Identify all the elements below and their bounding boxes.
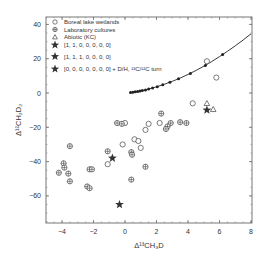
open-circle-marker [146,121,151,126]
y-axis-label: Δ¹²CH₂D₂ [14,104,23,136]
curve-dot [151,87,154,90]
star-marker [51,41,59,49]
legend-label: Abiotic (KC) [64,34,96,40]
x-tick-label: 8 [249,228,253,235]
star-marker [203,106,212,114]
triangle-marker [204,100,210,105]
legend-label: Laboratory cultures [64,27,115,33]
chart-canvas: −4−202468−60−40−2002040 Boreal lake wetl… [0,0,267,263]
open-circle-marker [53,20,57,24]
curve-line [130,34,251,93]
curve-dot [141,89,144,92]
star-marker [51,52,59,60]
open-circle-marker [214,75,219,80]
curve-dot [221,53,224,56]
curve-dot [147,88,150,91]
triangle-marker [210,106,216,111]
x-tick-label: 0 [123,228,127,235]
open-circle-marker [204,59,209,64]
legend-label: [1, 1, 0, 0, 0, 0, 0] [64,42,111,48]
open-circle-marker [157,120,162,125]
x-tick-label: 6 [218,228,222,235]
curve-dot [168,81,171,84]
star-marker [51,65,59,73]
y-tick-label: 20 [33,55,41,62]
star-marker [115,200,124,208]
open-circle-marker [105,162,110,167]
y-tick-label: −40 [29,158,41,165]
curve-dot [161,83,164,86]
x-tick-label: 2 [155,228,159,235]
legend-label: Boreal lake wetlands [64,19,119,25]
y-tick-label: 40 [33,21,41,28]
scatter-chart: −4−202468−60−40−2002040 Boreal lake wetl… [0,0,267,263]
x-tick-label: 4 [186,228,190,235]
open-circle-marker [190,101,195,106]
star-marker [108,154,117,162]
y-tick-label: −20 [29,124,41,131]
y-tick-label: 0 [37,90,41,97]
curve-dot [189,72,192,75]
open-circle-marker [120,142,125,147]
x-tick-label: −2 [90,228,98,235]
curve-dot [156,85,159,88]
axis-ticks: −4−202468−60−40−2002040 [29,17,253,235]
x-tick-label: −4 [58,228,66,235]
legend: Boreal lake wetlandsLaboratory culturesA… [51,19,162,72]
curve-dot [177,77,180,80]
legend-label: [1, 1, 1, 0, 0, 0, 0] [64,54,111,60]
open-circle-marker [136,138,141,143]
curve-dot [204,64,207,67]
curve-dot [144,88,147,91]
data-points [56,59,219,209]
open-circle-marker [143,127,148,132]
open-circle-marker [138,145,143,150]
triangle-marker [53,35,58,39]
legend-label: [0, 0, 0, 0, 0, 0, 0] + D/H, ¹³C/¹²C tur… [64,66,162,72]
x-axis-label: Δ¹³CH₃D [134,241,164,250]
equilibrium-curve [129,34,251,94]
y-tick-label: −60 [29,192,41,199]
